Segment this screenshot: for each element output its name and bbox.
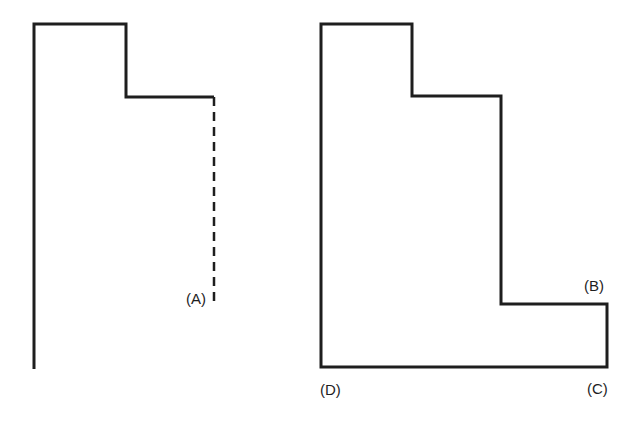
right-figure-outline [321,24,607,367]
label-c: (C) [587,380,608,397]
label-a: (A) [186,290,206,307]
label-b: (B) [584,277,604,294]
diagram-canvas: (A) (B) (C) (D) [0,0,631,422]
left-figure: (A) [34,24,214,369]
label-d: (D) [320,381,341,398]
right-figure: (B) (C) (D) [320,24,608,398]
left-figure-solid-outline [34,24,214,369]
